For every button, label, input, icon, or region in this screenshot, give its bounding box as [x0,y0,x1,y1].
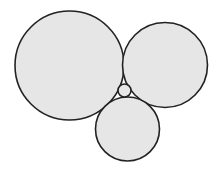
circle-right [123,23,208,108]
tangent-circles-diagram [0,0,216,172]
circle-bottom [96,97,160,161]
circle-small-center [118,84,131,97]
